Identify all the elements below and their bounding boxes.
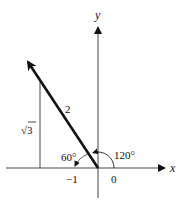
unit-vector-diagram: x y √3 2 120° 60° −1 0 [0, 0, 184, 207]
angle-60-label: 60° [61, 151, 76, 163]
vertical-side-label: √3 [21, 124, 33, 136]
y-axis-label: y [94, 8, 101, 22]
angle-60-arc [75, 154, 88, 166]
tick-label-0: 0 [111, 173, 117, 185]
vector-length-label: 2 [65, 103, 71, 115]
tick-label-neg1: −1 [66, 173, 78, 185]
x-axis-label: x [169, 161, 176, 175]
angle-120-label: 120° [114, 149, 135, 161]
